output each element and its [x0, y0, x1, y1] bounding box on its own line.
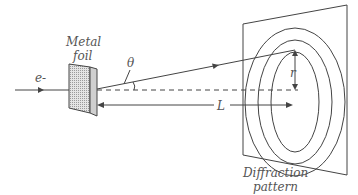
radius-label: r	[290, 66, 297, 80]
incident-beam	[15, 87, 72, 93]
arrowhead-right-icon	[286, 102, 293, 108]
theta-angle	[124, 70, 135, 90]
arrowhead-icon	[212, 64, 219, 70]
metal-foil	[69, 64, 97, 116]
distance-label: L	[216, 99, 225, 113]
pattern-label-line2: pattern	[253, 180, 298, 194]
foil-label-line2: foil	[72, 49, 93, 63]
arrowhead-down-icon	[292, 84, 298, 90]
distance-arrow	[97, 102, 293, 108]
diffraction-diagram: e- Metal foil θ L r Diffraction pattern	[0, 0, 358, 195]
arrowhead-left-icon	[97, 102, 104, 108]
arrowhead-icon	[38, 87, 44, 93]
electron-label: e-	[35, 71, 46, 85]
pattern-label-line1: Diffraction	[242, 166, 308, 180]
theta-label: θ	[127, 56, 135, 70]
foil-label-line1: Metal	[65, 35, 101, 49]
